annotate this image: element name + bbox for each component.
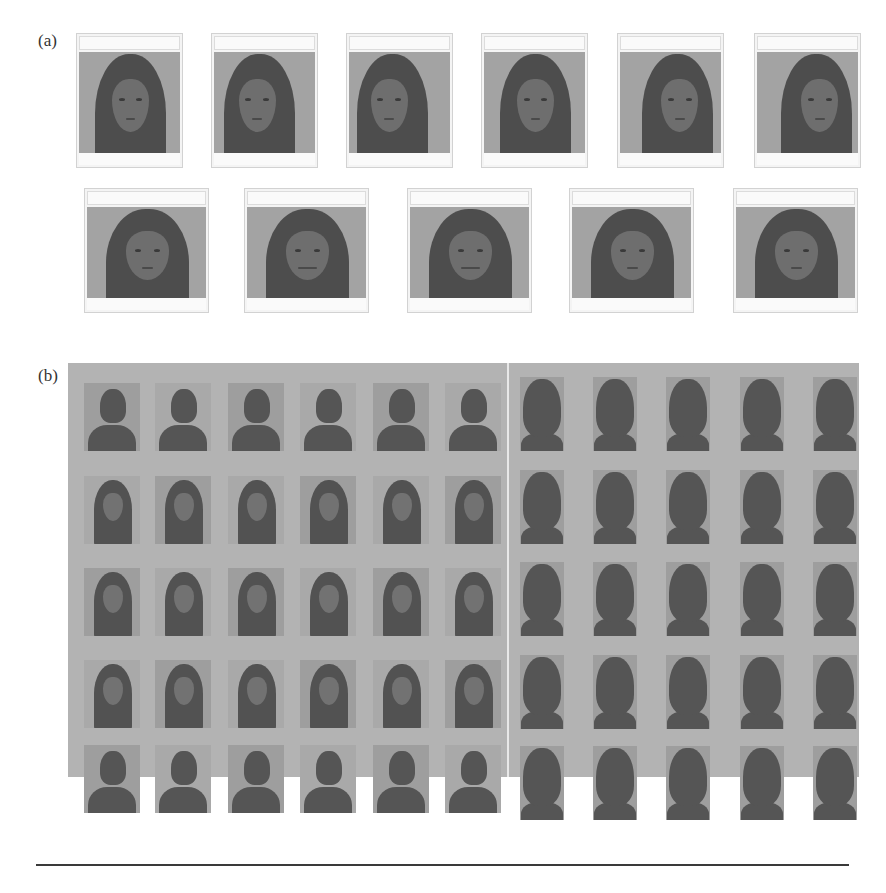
frame-title-bar	[247, 191, 366, 205]
thumbnail-male	[666, 470, 710, 544]
frame-status-bar	[620, 153, 721, 165]
bottom-rule	[36, 864, 849, 866]
capture-frame-looking-down	[84, 188, 209, 313]
frame-status-bar	[349, 153, 450, 165]
frame-status-bar	[736, 298, 855, 310]
thumbnail-male	[740, 746, 784, 820]
eye	[458, 249, 464, 252]
thumbnail-female	[373, 476, 429, 544]
capture-frame-frontal	[76, 33, 183, 168]
frame-title-bar	[757, 36, 858, 50]
thumbnail-female	[373, 383, 429, 451]
capture-frame-frontal-neutral	[569, 188, 694, 313]
face-photo	[757, 52, 858, 155]
thumbnail-female	[373, 568, 429, 636]
panel-b	[68, 363, 859, 777]
frame-status-bar	[79, 153, 180, 165]
thumbnail-female	[228, 568, 284, 636]
frame-title-bar	[620, 36, 721, 50]
thumbnail-female	[300, 383, 356, 451]
frame-title-bar	[87, 191, 206, 205]
frame-status-bar	[410, 298, 529, 310]
eye	[639, 249, 645, 252]
capture-frame-turned-left	[346, 33, 453, 168]
frame-status-bar	[572, 298, 691, 310]
eye	[686, 98, 692, 101]
thumbnail-female	[228, 383, 284, 451]
thumbnail-female	[84, 568, 140, 636]
thumbnail-male	[813, 655, 857, 729]
thumbnail-male	[813, 377, 857, 451]
frame-title-bar	[214, 36, 315, 50]
thumbnail-female	[300, 568, 356, 636]
face-photo	[484, 52, 585, 155]
frame-title-bar	[349, 36, 450, 50]
eye	[119, 98, 125, 101]
eye	[784, 249, 790, 252]
thumbnail-male	[666, 655, 710, 729]
thumbnail-female	[228, 745, 284, 813]
thumbnail-female	[155, 476, 211, 544]
frame-title-bar	[79, 36, 180, 50]
thumbnail-female	[445, 568, 501, 636]
capture-frame-looking-up	[481, 33, 588, 168]
thumbnail-female	[84, 745, 140, 813]
thumbnail-male	[593, 562, 637, 636]
face-photo	[736, 207, 855, 300]
thumbnail-female	[445, 660, 501, 728]
eye	[477, 249, 483, 252]
frame-status-bar	[484, 153, 585, 165]
thumbnail-female	[300, 660, 356, 728]
thumbnail-male	[520, 562, 564, 636]
eye	[295, 249, 301, 252]
eye	[803, 249, 809, 252]
eye	[668, 98, 674, 101]
thumbnail-male	[593, 746, 637, 820]
thumbnail-male	[666, 377, 710, 451]
face-photo	[620, 52, 721, 155]
thumbnail-male	[520, 655, 564, 729]
thumbnail-male	[593, 377, 637, 451]
thumbnail-female	[445, 745, 501, 813]
frame-title-bar	[736, 191, 855, 205]
thumbnail-female	[373, 745, 429, 813]
face-photo	[79, 52, 180, 155]
face-photo	[87, 207, 206, 300]
thumbnail-male	[740, 562, 784, 636]
thumbnail-female	[228, 660, 284, 728]
thumbnail-male	[813, 470, 857, 544]
thumbnail-female	[373, 660, 429, 728]
thumbnail-female	[84, 660, 140, 728]
frame-status-bar	[87, 298, 206, 310]
face-photo	[572, 207, 691, 300]
face-photo	[349, 52, 450, 155]
eye	[154, 249, 160, 252]
capture-frame-tilted-left	[754, 33, 861, 168]
thumbnail-male	[666, 562, 710, 636]
thumbnail-female	[445, 476, 501, 544]
thumbnail-male	[740, 377, 784, 451]
thumbnail-female	[155, 383, 211, 451]
eye	[620, 249, 626, 252]
thumbnail-male	[520, 746, 564, 820]
thumbnail-female	[84, 476, 140, 544]
thumbnail-male	[520, 377, 564, 451]
capture-frame-smiling	[244, 188, 369, 313]
panel-a-label: (a)	[38, 31, 57, 51]
thumbnail-male	[666, 746, 710, 820]
thumbnail-female	[445, 383, 501, 451]
frame-status-bar	[247, 298, 366, 310]
thumbnail-female	[300, 745, 356, 813]
eye	[826, 98, 832, 101]
eye	[135, 249, 141, 252]
capture-frame-frontal-slight-smile	[733, 188, 858, 313]
frame-title-bar	[410, 191, 529, 205]
frame-status-bar	[214, 153, 315, 165]
frame-title-bar	[572, 191, 691, 205]
panel-b-label: (b)	[38, 366, 58, 386]
eye	[524, 98, 530, 101]
eye	[808, 98, 814, 101]
thumbnail-male	[740, 655, 784, 729]
thumbnail-female	[300, 476, 356, 544]
thumbnail-female	[155, 568, 211, 636]
